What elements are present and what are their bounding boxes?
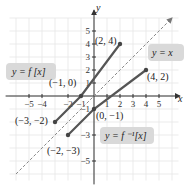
y-tick-label: −1 — [80, 104, 90, 114]
point-label-m1-0: (−1, 0) — [49, 77, 76, 89]
point-label-2-4: (2, 4) — [95, 35, 117, 47]
y-tick-label: 4 — [86, 39, 91, 49]
x-tick-label: −4 — [37, 99, 47, 109]
x-tick-label: 2 — [118, 99, 123, 109]
y-tick-label: 3 — [86, 52, 91, 62]
finv-label: y = f ⁻¹[x] — [104, 130, 147, 141]
graph: −5−4−2−11234554321−1−3−5 y = f [x] y = x… — [0, 0, 188, 187]
x-axis-label: x — [177, 93, 183, 104]
point-label-m2-m3: (−2, −3) — [47, 145, 80, 157]
y-tick-label: −3 — [80, 130, 90, 140]
x-tick-label: 4 — [144, 99, 149, 109]
identity-label-box: y = x — [148, 44, 184, 61]
point-label-0-m1: (0, −1) — [96, 110, 123, 122]
y-axis-label: y — [95, 2, 101, 13]
identity-label: y = x — [151, 47, 173, 58]
data-point — [66, 133, 70, 137]
point-label-m3-m2: (−3, −2) — [15, 115, 48, 127]
finv-label-box: y = f ⁻¹[x] — [100, 127, 154, 144]
f-label: y = f [x] — [11, 66, 46, 77]
data-point — [118, 42, 122, 46]
x-tick-label: 3 — [131, 99, 136, 109]
y-tick-label: 2 — [86, 65, 91, 75]
data-point — [79, 94, 83, 98]
point-label-4-2: (4, 2) — [147, 71, 169, 83]
data-point — [53, 120, 57, 124]
y-tick-label: −5 — [80, 156, 90, 166]
y-tick-label: 5 — [86, 26, 91, 36]
x-tick-label: −5 — [24, 99, 34, 109]
x-tick-label: 5 — [157, 99, 162, 109]
